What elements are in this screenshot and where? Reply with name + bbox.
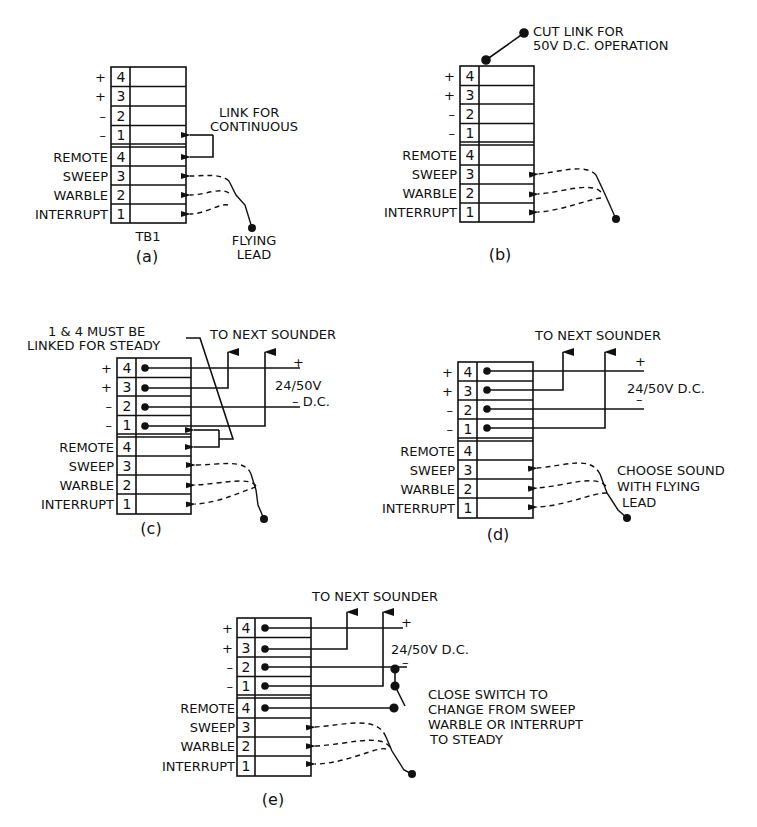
terminal-number: 2 <box>242 659 251 675</box>
panel-a: 4 3 2 1 4 3 2 1 + + – – REMOTE SWEEP WAR… <box>35 67 298 266</box>
terminal-label-interrupt: INTERRUPT <box>162 759 235 774</box>
terminal-screw-icon <box>261 663 269 671</box>
terminal-screw-icon <box>261 704 269 712</box>
terminal-number: 4 <box>117 69 126 85</box>
note-line: WITH FLYING <box>617 479 700 494</box>
polarity-label: – <box>227 660 234 675</box>
supply-minus: – D.C. <box>292 394 330 409</box>
polarity-label: + <box>222 621 233 636</box>
terminal-number: 2 <box>123 477 132 493</box>
terminal-number: 3 <box>464 383 473 399</box>
polarity-label: – <box>100 109 107 124</box>
terminal-screw-icon <box>483 424 491 432</box>
terminal-number: 4 <box>466 147 475 163</box>
panel-caption: (e) <box>262 790 284 809</box>
note-line: LINK FOR <box>219 105 279 120</box>
note-line: 1 & 4 MUST BE <box>48 324 145 339</box>
terminal-number: 3 <box>123 458 132 474</box>
flying-lead-end-icon <box>612 215 620 223</box>
terminal-label-interrupt: INTERRUPT <box>41 497 114 512</box>
flying-lead <box>537 463 627 518</box>
flying-lead-end-icon <box>623 514 631 522</box>
terminal-number: 4 <box>464 443 473 459</box>
polarity-label: + <box>101 380 112 395</box>
terminal-number: 1 <box>464 421 473 437</box>
terminal-number: 2 <box>466 106 475 122</box>
note-line: WARBLE OR INTERRUPT <box>428 717 583 732</box>
terminal-screw-icon <box>141 422 149 430</box>
terminal-number: 3 <box>466 166 475 182</box>
panel-caption: (b) <box>489 245 512 264</box>
note-line: LINKED FOR STEADY <box>27 338 160 353</box>
polarity-label: + <box>95 89 106 104</box>
terminal-number: 1 <box>123 417 132 433</box>
supply-minus: – <box>402 655 409 670</box>
terminal-label-sweep: SWEEP <box>190 720 236 735</box>
panel-d: 4 3 2 1 4 3 2 1 + + – – REMOTE SWEEP WAR… <box>382 328 725 544</box>
terminal-number: 1 <box>117 206 126 222</box>
polarity-label: – <box>447 403 454 418</box>
block-label: TB1 <box>134 229 160 244</box>
terminal-screw-icon <box>261 624 269 632</box>
to-next-sounder-label: TO NEXT SOUNDER <box>534 328 661 343</box>
polarity-label: + <box>442 365 453 380</box>
supply-minus: – <box>636 392 643 407</box>
terminal-number: 1 <box>464 500 473 516</box>
polarity-label: + <box>101 361 112 376</box>
terminal-label-remote: REMOTE <box>53 150 108 165</box>
terminal-number: 2 <box>464 402 473 418</box>
terminal-number: 2 <box>242 738 251 754</box>
note-line: CUT LINK FOR <box>533 24 624 39</box>
terminal-label-sweep: SWEEP <box>69 459 115 474</box>
terminal-number: 3 <box>242 719 251 735</box>
polarity-label: – <box>227 679 234 694</box>
flying-lead <box>190 175 252 228</box>
terminal-label-sweep: SWEEP <box>410 463 456 478</box>
panel-caption: (c) <box>140 519 161 538</box>
terminal-number: 2 <box>123 398 132 414</box>
terminal-number: 2 <box>117 187 126 203</box>
to-next-sounder-label: TO NEXT SOUNDER <box>311 589 438 604</box>
terminal-screw-icon <box>261 645 269 653</box>
flying-lead-end-icon <box>260 515 268 523</box>
supply-wiring <box>487 352 644 428</box>
flying-lead-label: LEAD <box>237 247 271 262</box>
note-line: CHOOSE SOUND <box>617 463 725 478</box>
terminal-number: 4 <box>242 620 251 636</box>
terminal-screw-icon <box>141 403 149 411</box>
continuous-link <box>190 135 213 157</box>
panel-b: 4 3 2 1 4 3 2 1 + + – – REMOTE SWEEP WAR… <box>384 24 669 264</box>
note-line: CHANGE FROM SWEEP <box>428 702 576 717</box>
note-line: CLOSE SWITCH TO <box>428 687 548 702</box>
terminal-label-interrupt: INTERRUPT <box>382 501 455 516</box>
terminal-number: 3 <box>466 87 475 103</box>
terminal-number: 1 <box>242 758 251 774</box>
terminal-screw-icon <box>483 405 491 413</box>
terminal-label-warble: WARBLE <box>403 186 457 201</box>
polarity-label: – <box>106 418 113 433</box>
terminal-label-remote: REMOTE <box>59 440 114 455</box>
supply-wiring <box>265 612 407 708</box>
terminal-label-warble: WARBLE <box>401 482 455 497</box>
polarity-label: – <box>449 126 456 141</box>
terminal-label-remote: REMOTE <box>400 444 455 459</box>
supply-voltage: 24/50V <box>275 378 321 393</box>
steady-link <box>186 338 233 447</box>
polarity-label: + <box>222 641 233 656</box>
terminal-number: 2 <box>464 481 473 497</box>
note-line: LEAD <box>622 495 656 510</box>
terminal-label-sweep: SWEEP <box>412 167 458 182</box>
terminal-number: 1 <box>242 678 251 694</box>
switch-icon <box>390 665 405 712</box>
terminal-screw-icon <box>141 364 149 372</box>
terminal-screw-icon <box>261 682 269 690</box>
polarity-label: – <box>449 107 456 122</box>
polarity-label: + <box>444 88 455 103</box>
panel-caption: (a) <box>136 247 158 266</box>
polarity-label: + <box>95 70 106 85</box>
flying-lead <box>538 169 616 219</box>
terminal-number: 2 <box>466 185 475 201</box>
terminal-label-sweep: SWEEP <box>63 169 109 184</box>
polarity-label: – <box>447 422 454 437</box>
terminal-label-interrupt: INTERRUPT <box>35 207 108 222</box>
